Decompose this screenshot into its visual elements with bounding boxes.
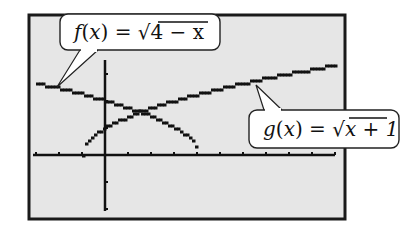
graphing-calculator-screen: f(x) = √4 − xg(x) = √x + 1 [0,0,418,231]
g-label-text: g(x) = √x + 1 [263,117,398,141]
sqrt-symbol: √ [332,117,345,141]
f-label-text: f(x) = √4 − x [72,20,205,44]
sqrt-symbol: √ [138,20,151,44]
